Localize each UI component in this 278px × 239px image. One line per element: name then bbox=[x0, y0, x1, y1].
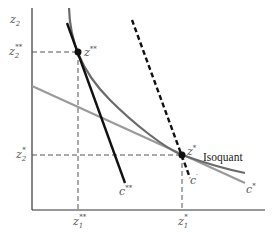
diagram-svg: z2 z2** z2* z1** z1* z** z* Isoquant c**… bbox=[0, 0, 278, 239]
x-tick-z1-star: z1* bbox=[177, 213, 188, 230]
label-z-star: z* bbox=[186, 144, 197, 158]
label-c-prime: c′ bbox=[190, 173, 198, 187]
label-z-double-star: z** bbox=[83, 45, 97, 59]
isoquant-label: Isoquant bbox=[203, 151, 243, 164]
y-tick-z2-star: z2* bbox=[15, 146, 27, 163]
point-z-double-star bbox=[75, 49, 82, 56]
point-z-star bbox=[179, 152, 186, 159]
y-axis-label: z2 bbox=[9, 13, 21, 28]
c-star-isocost-line bbox=[32, 86, 245, 183]
y-tick-z2-double-star: z2** bbox=[8, 43, 23, 60]
label-c-star: c* bbox=[246, 182, 256, 196]
x-tick-z1-double-star: z1** bbox=[72, 213, 87, 230]
isoquant-diagram: z2 z2** z2* z1** z1* z** z* Isoquant c**… bbox=[0, 0, 278, 239]
label-c-double-star: c** bbox=[119, 184, 133, 198]
